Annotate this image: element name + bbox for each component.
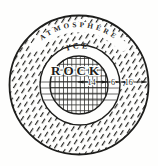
diagram-page: ATMOSPHERE ICE ROCK: [0, 0, 158, 166]
dimension-value-ice: 6: [111, 78, 115, 87]
planet-interior-diagram: ATMOSPHERE ICE ROCK: [0, 0, 158, 166]
rock-label: ROCK: [51, 63, 102, 78]
dimension-value-atmosphere: 16: [125, 78, 133, 87]
dimension-value-rock: 14: [88, 78, 96, 87]
